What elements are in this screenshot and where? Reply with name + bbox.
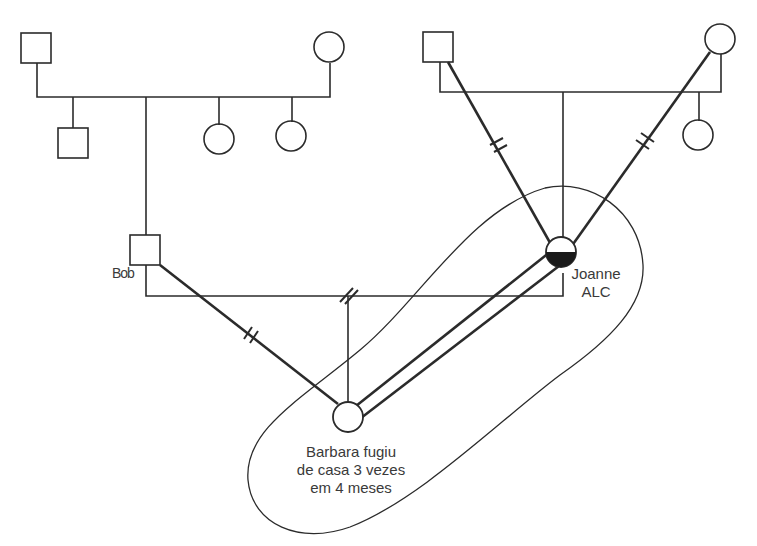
bob-sister1-circle xyxy=(204,124,234,154)
joanne-name: Joanne xyxy=(566,265,626,283)
joanne-symbol xyxy=(546,237,576,267)
joanne-note: ALC xyxy=(566,283,626,301)
joanne-label: Joanne ALC xyxy=(566,265,626,301)
close-line-joanne-barbara-1 xyxy=(356,252,550,406)
bob-square xyxy=(130,235,160,265)
barbara-circle xyxy=(333,402,363,432)
close-line-joanne-barbara-2 xyxy=(361,266,559,418)
maternal-grandfather-square xyxy=(423,32,453,62)
barbara-label: Barbara fugiu de casa 3 vezes em 4 meses xyxy=(284,443,418,497)
paternal-grandfather-square xyxy=(21,33,51,63)
barbara-note-line1: Barbara fugiu xyxy=(284,443,418,461)
barbara-note-line3: em 4 meses xyxy=(284,479,418,497)
joanne-sister-circle xyxy=(683,120,713,150)
barbara-note-line2: de casa 3 vezes xyxy=(284,461,418,479)
cutoff-line-grandmother-joanne xyxy=(571,52,710,247)
maternal-grandmother-circle xyxy=(705,24,735,54)
bob-sister2-circle xyxy=(276,121,306,151)
bob-label: Bob xyxy=(112,264,134,282)
paternal-marriage-line xyxy=(37,63,330,97)
paternal-grandmother-circle xyxy=(314,32,344,62)
cutoff-line-bob-barbara xyxy=(160,265,338,404)
bob-brother-square xyxy=(58,128,88,158)
maternal-marriage-line xyxy=(440,54,721,92)
cutoff-line-grandfather-joanne xyxy=(448,62,553,248)
